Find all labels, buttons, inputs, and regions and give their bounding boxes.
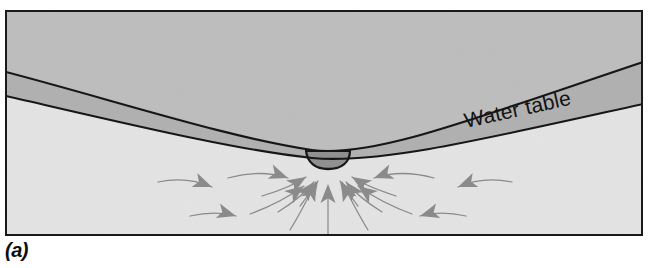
- cross-section-block: Water table: [6, 11, 643, 238]
- panel-label: (a): [5, 240, 28, 260]
- paper-grain-overlay: [6, 11, 642, 235]
- figure-container: Water table (a): [0, 0, 648, 268]
- groundwater-cross-section-diagram: Water table: [0, 0, 648, 268]
